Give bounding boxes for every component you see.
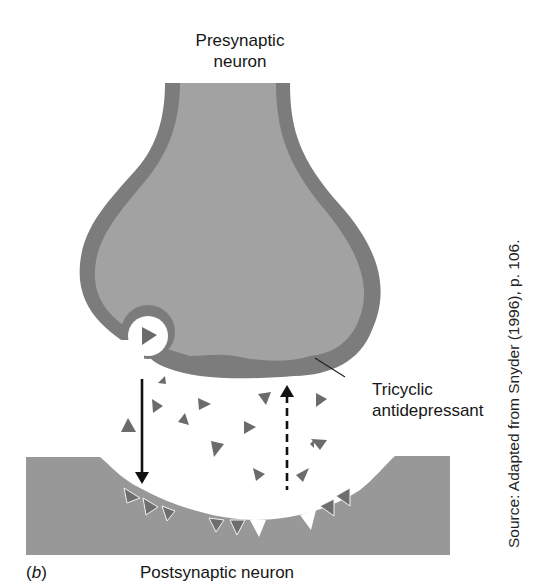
neurotransmitter — [258, 392, 271, 405]
neurotransmitter — [211, 441, 224, 457]
neurotransmitter — [178, 413, 189, 425]
neurotransmitters — [121, 376, 327, 482]
tricyclic-label-line2: antidepressant — [372, 400, 484, 421]
presynaptic-label-line2: neuron — [160, 51, 320, 72]
release-arrow-head — [135, 472, 149, 484]
neurotransmitter — [158, 376, 166, 384]
tricyclic-label-line1: Tricyclic — [372, 379, 484, 400]
postsynaptic-neuron — [26, 456, 450, 555]
panel-label: (b) — [26, 562, 47, 583]
reuptake-arrow-head — [280, 385, 294, 397]
neurotransmitter — [152, 399, 163, 413]
panel-letter: b — [32, 563, 41, 582]
panel-paren-close: ) — [41, 563, 47, 582]
postsynaptic-neuron-label: Postsynaptic neuron — [140, 562, 294, 583]
neurotransmitter — [121, 418, 136, 432]
neurotransmitter — [253, 468, 265, 481]
presynaptic-neuron-label: Presynaptic neuron — [160, 30, 320, 72]
vesicle-opening — [120, 340, 144, 370]
synapse-diagram — [0, 0, 533, 588]
neurotransmitter — [310, 440, 314, 448]
neurotransmitter — [244, 421, 256, 434]
neurotransmitter — [198, 398, 211, 410]
tricyclic-antidepressant-label: Tricyclic antidepressant — [372, 379, 484, 421]
neurotransmitter — [296, 468, 309, 482]
presynaptic-label-line1: Presynaptic — [160, 30, 320, 51]
source-citation: Source: Adapted from Snyder (1996), p. 1… — [505, 240, 523, 548]
neurotransmitter — [316, 393, 327, 407]
